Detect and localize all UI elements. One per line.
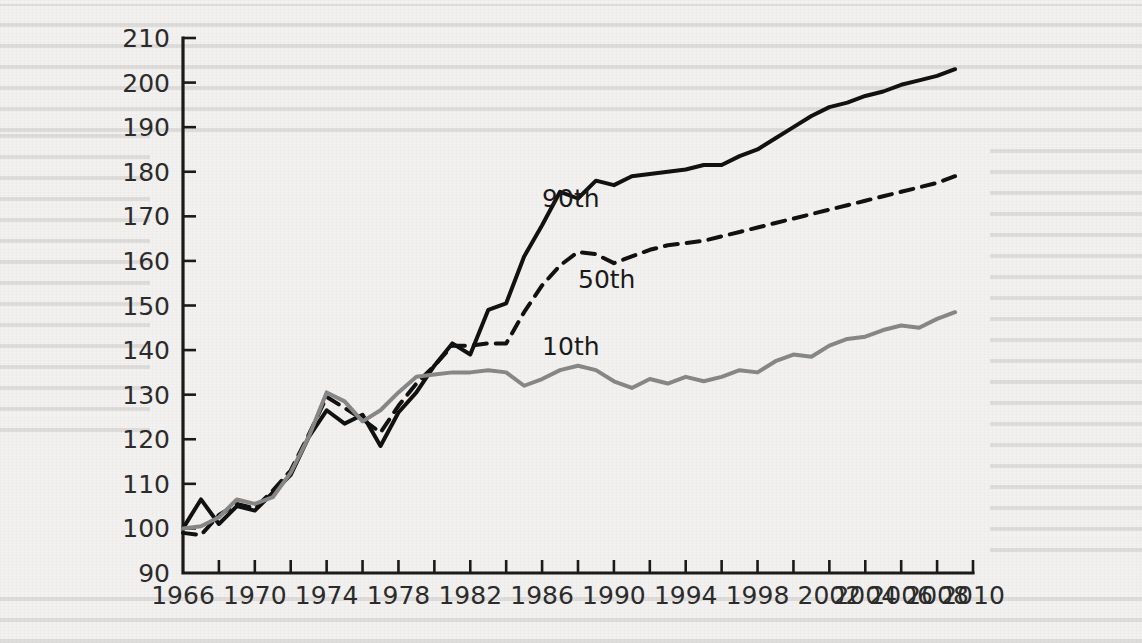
y-tick-label: 100 <box>122 514 170 543</box>
y-tick-label: 150 <box>122 292 170 321</box>
series-label-10th: 10th <box>542 332 599 361</box>
figure-container: 9010011012013014015016017018019020021019… <box>0 0 1142 643</box>
y-tick-label: 190 <box>122 113 170 142</box>
line-chart: 9010011012013014015016017018019020021019… <box>0 0 1142 643</box>
y-tick-label: 160 <box>122 247 170 276</box>
x-tick-label: 1998 <box>726 581 790 610</box>
series-label-90th: 90th <box>542 184 599 213</box>
y-tick-label: 200 <box>122 69 170 98</box>
series-label-50th: 50th <box>578 265 635 294</box>
x-tick-label: 1970 <box>223 581 287 610</box>
y-tick-label: 140 <box>122 336 170 365</box>
y-tick-label: 180 <box>122 158 170 187</box>
x-tick-label: 1982 <box>438 581 502 610</box>
y-tick-label: 110 <box>122 470 170 499</box>
y-tick-label: 130 <box>122 381 170 410</box>
y-tick-label: 170 <box>122 202 170 231</box>
x-tick-label: 1966 <box>151 581 215 610</box>
x-tick-label: 1990 <box>582 581 646 610</box>
x-tick-label: 1994 <box>654 581 718 610</box>
x-tick-label: 2010 <box>941 581 1005 610</box>
x-tick-label: 1974 <box>295 581 359 610</box>
x-tick-label: 1978 <box>367 581 431 610</box>
y-tick-label: 210 <box>122 24 170 53</box>
y-tick-label: 120 <box>122 425 170 454</box>
x-tick-label: 1986 <box>510 581 574 610</box>
axis-lines <box>183 38 973 573</box>
